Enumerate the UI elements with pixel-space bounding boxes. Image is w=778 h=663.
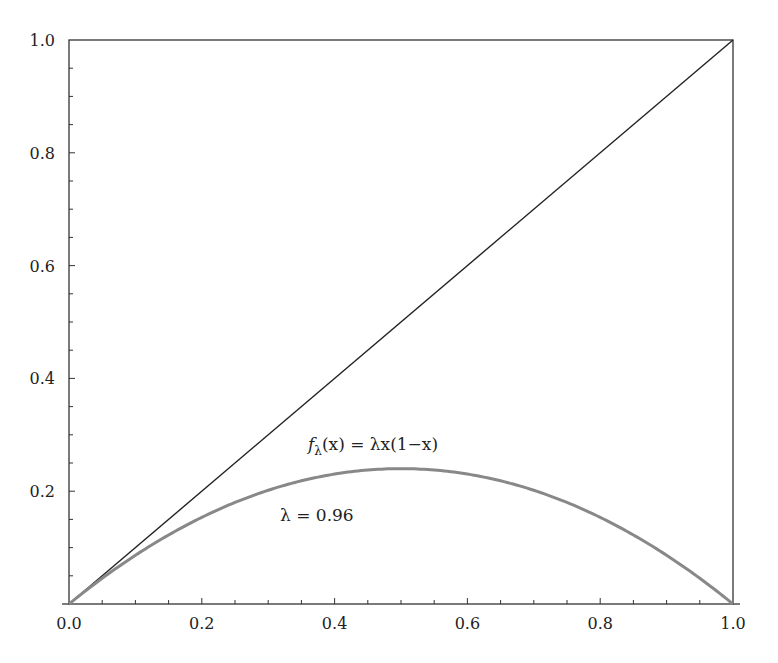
y-tick-label: 0.8 (30, 144, 55, 163)
lambda-annotation: λ = 0.96 (280, 505, 354, 525)
x-tick-label: 0.6 (455, 614, 480, 633)
identity-line (69, 40, 733, 604)
function-annotation: fλ(x) = λx(1−x) (306, 434, 438, 458)
y-tick-label: 1.0 (30, 31, 55, 50)
y-tick-label: 0.6 (30, 257, 55, 276)
logistic-curve (69, 469, 733, 604)
y-axis-tick-labels: 0.20.40.60.81.0 (30, 31, 55, 501)
x-tick-label: 0.4 (322, 614, 347, 633)
y-tick-label: 0.2 (30, 482, 55, 501)
y-tick-label: 0.4 (30, 369, 55, 388)
x-tick-label: 0.8 (587, 614, 612, 633)
x-tick-label: 0.2 (189, 614, 214, 633)
logistic-map-chart: 0.00.20.40.60.81.0 0.20.40.60.81.0 fλ(x)… (0, 0, 778, 663)
x-tick-label: 1.0 (720, 614, 745, 633)
x-axis-tick-labels: 0.00.20.40.60.81.0 (56, 614, 745, 633)
x-tick-label: 0.0 (56, 614, 81, 633)
